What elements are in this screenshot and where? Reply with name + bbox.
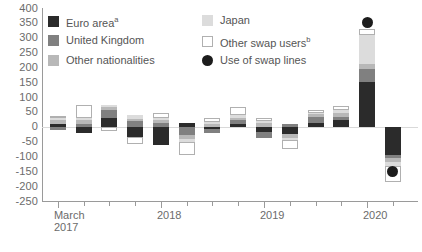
x-tick-major [161, 201, 162, 208]
swap-line-usage-dot [387, 166, 398, 177]
bar-segment [282, 140, 298, 149]
bar-segment [50, 120, 66, 124]
bar-segment [282, 127, 298, 135]
legend-item: Japan [202, 14, 250, 26]
bar-segment [308, 113, 324, 115]
x-tick-minor [290, 201, 291, 206]
x-axis-line [42, 201, 418, 202]
bar-segment [153, 123, 169, 127]
x-tick-major [367, 201, 368, 208]
x-tick-minor [212, 201, 213, 206]
bar-segment [230, 124, 246, 126]
legend-item: Other nationalities [48, 54, 155, 66]
bar-segment [204, 129, 220, 133]
y-tick-label: 0 [0, 121, 38, 132]
bar-segment [359, 69, 375, 82]
bar-segment [256, 132, 272, 138]
x-axis-label: 2019 [260, 209, 284, 221]
x-tick-minor [316, 201, 317, 206]
bar-segment [308, 114, 324, 116]
x-tick-minor [84, 201, 85, 206]
bar-segment [179, 127, 195, 135]
bar-segment [76, 124, 92, 127]
bar-segment [127, 137, 143, 144]
legend-swatch-icon [202, 55, 213, 66]
bar-segment [101, 110, 117, 118]
y-tick-label: 250 [0, 47, 38, 58]
bar-segment [359, 82, 375, 127]
x-tick-minor [109, 201, 110, 206]
bar-segment [230, 118, 246, 120]
x-tick-major [58, 201, 59, 208]
bar-segment [230, 115, 246, 118]
legend-label: Other nationalities [66, 54, 155, 66]
y-tick-label: 400 [0, 3, 38, 14]
x-axis-label: 2020 [363, 209, 387, 221]
y-tick-label: 300 [0, 32, 38, 43]
bar-segment [204, 118, 220, 122]
swap-line-usage-dot [362, 17, 373, 28]
bar-segment [76, 105, 92, 117]
legend-swatch-icon [48, 16, 59, 27]
bar-segment [153, 120, 169, 123]
bar-segment [204, 122, 220, 124]
x-axis-label: March 2017 [54, 209, 85, 233]
bar-segment [333, 113, 349, 117]
bar-segment [101, 127, 117, 131]
legend-label: Use of swap lines [220, 54, 306, 66]
bar-segment [50, 118, 66, 120]
y-tick-label: -250 [0, 196, 38, 207]
bar-segment [308, 110, 324, 113]
legend-item: Euro areaa [48, 14, 118, 29]
y-tick-label: -50 [0, 136, 38, 147]
x-tick-minor [135, 201, 136, 206]
bar-segment [179, 142, 195, 154]
bar-segment [127, 119, 143, 121]
bar-segment [153, 127, 169, 145]
bar-segment [76, 118, 92, 120]
legend-label: Japan [220, 14, 250, 26]
bar-segment [385, 127, 401, 155]
bar-segment [204, 124, 220, 127]
legend-swatch-icon [202, 15, 213, 26]
chart-legend: Euro areaaUnited KingdomOther nationalit… [48, 14, 358, 72]
bar-segment [308, 117, 324, 123]
bar-segment [359, 64, 375, 69]
x-tick-minor [341, 201, 342, 206]
x-tick-minor [393, 201, 394, 206]
bar-segment [359, 29, 375, 36]
x-tick-major [264, 201, 265, 208]
bar-segment [333, 110, 349, 113]
bar-group [359, 8, 375, 201]
bar-segment [333, 120, 349, 127]
x-tick-minor [187, 201, 188, 206]
bar-segment [333, 117, 349, 121]
bar-segment [50, 116, 66, 118]
bar-segment [359, 35, 375, 63]
bar-segment [76, 120, 92, 124]
bar-segment [153, 113, 169, 118]
bar-segment [333, 106, 349, 110]
bar-segment [230, 120, 246, 125]
bar-segment [50, 127, 66, 131]
bar-segment [101, 105, 117, 107]
legend-swatch-icon [48, 35, 59, 46]
legend-label: Other swap usersb [220, 34, 310, 49]
bar-segment [76, 127, 92, 134]
stacked-bar-chart: 400350300250200150100500-50-100-150-200-… [0, 0, 422, 252]
legend-label: United Kingdom [66, 34, 144, 46]
y-tick-label: 50 [0, 106, 38, 117]
y-tick-label: 100 [0, 92, 38, 103]
bar-segment [256, 118, 272, 121]
bar-segment [256, 123, 272, 127]
bar-segment [101, 118, 117, 127]
bar-segment [127, 121, 143, 127]
legend-item: Other swap usersb [202, 34, 310, 49]
bar-segment [153, 118, 169, 120]
bar-segment [230, 107, 246, 115]
y-tick-label: -200 [0, 181, 38, 192]
legend-label: Euro areaa [66, 14, 118, 29]
bar-segment [101, 107, 117, 110]
bar-segment [282, 124, 298, 127]
x-axis-label: 2018 [157, 209, 181, 221]
